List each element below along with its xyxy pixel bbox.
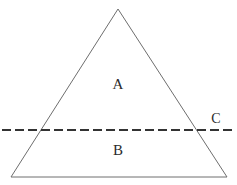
dashed-line-label-c: C (207, 111, 225, 126)
region-label-a: A (104, 77, 132, 92)
triangle-figure: A B C (0, 0, 237, 185)
region-label-b: B (104, 143, 132, 158)
